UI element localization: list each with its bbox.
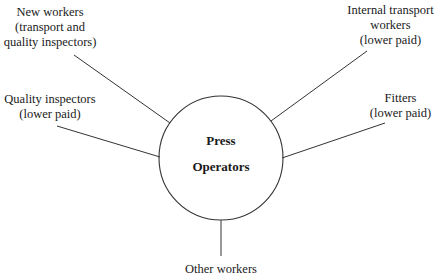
node-line: (lower paid) — [340, 33, 441, 48]
node-line: Other workers — [171, 262, 271, 277]
node-line: (lower paid) — [0, 107, 100, 122]
node-new-workers: New workers (transport and quality inspe… — [0, 5, 100, 50]
node-quality-inspectors: Quality inspectors (lower paid) — [0, 92, 100, 122]
connector-internal-transport — [271, 51, 367, 121]
node-line: Fitters — [360, 91, 441, 106]
center-line-1: Press — [171, 133, 271, 149]
node-line: (transport and — [0, 20, 100, 35]
node-line: Quality inspectors — [0, 92, 100, 107]
connector-fitters — [282, 123, 385, 158]
node-internal-transport: Internal transport workers (lower paid) — [340, 3, 441, 48]
node-line: Internal transport — [340, 3, 441, 18]
node-other-workers: Other workers — [171, 262, 271, 277]
node-line: (lower paid) — [360, 106, 441, 121]
center-label: Press Operators — [171, 133, 271, 175]
node-line: quality inspectors) — [0, 35, 100, 50]
node-line: New workers — [0, 5, 100, 20]
node-fitters: Fitters (lower paid) — [360, 91, 441, 121]
connector-quality-inspectors — [57, 126, 160, 157]
center-line-2: Operators — [171, 159, 271, 175]
node-line: workers — [340, 18, 441, 33]
